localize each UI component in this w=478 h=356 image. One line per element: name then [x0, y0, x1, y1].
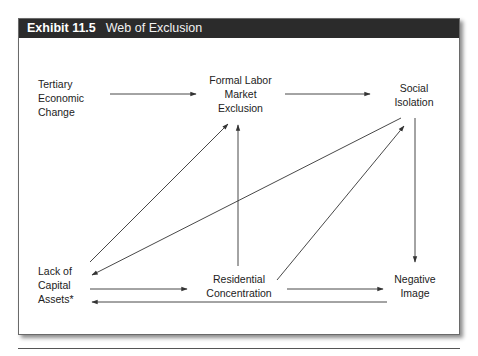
node-tertiary-economic-change: Tertiary Economic Change: [38, 77, 84, 119]
node-negative-image: Negative Image: [385, 272, 445, 300]
edge-social-to-capital: [92, 118, 401, 275]
node-label-line: Isolation: [382, 95, 446, 109]
node-label-line: Capital: [38, 278, 74, 292]
bottom-rule-divider: [18, 348, 460, 349]
node-label-line: Residential: [192, 272, 286, 286]
node-label-line: Formal Labor: [198, 73, 283, 87]
node-label-line: Lack of: [38, 264, 74, 278]
node-lack-of-capital-assets: Lack of Capital Assets*: [38, 264, 74, 306]
node-label-line: Negative: [385, 272, 445, 286]
node-label-line: Image: [385, 286, 445, 300]
node-label-line: Tertiary: [38, 77, 84, 91]
node-residential-concentration: Residential Concentration: [192, 272, 286, 300]
node-label-line: Market: [198, 87, 283, 101]
node-label-line: Change: [38, 105, 84, 119]
node-label-line: Social: [382, 81, 446, 95]
node-formal-labor-market-exclusion: Formal Labor Market Exclusion: [198, 73, 283, 115]
node-label-line: Concentration: [192, 286, 286, 300]
node-label-line: Exclusion: [198, 101, 283, 115]
node-label-line: Economic: [38, 91, 84, 105]
node-label-line: Assets*: [38, 292, 74, 306]
node-social-isolation: Social Isolation: [382, 81, 446, 109]
